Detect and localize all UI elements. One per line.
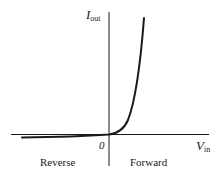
origin-label: 0: [99, 140, 105, 151]
y-axis-label: Iout: [86, 8, 101, 23]
diagram-canvas: [0, 0, 223, 182]
diode-curve: [22, 18, 144, 138]
reverse-region-label: Reverse: [40, 157, 75, 168]
y-axis-subscript: out: [90, 14, 100, 23]
diode-iv-diagram: Iout Vin 0 Reverse Forward: [0, 0, 223, 182]
forward-region-label: Forward: [130, 157, 167, 168]
x-axis-label: Vin: [196, 139, 210, 154]
x-axis-subscript: in: [204, 145, 210, 154]
x-axis-symbol: V: [196, 138, 204, 153]
